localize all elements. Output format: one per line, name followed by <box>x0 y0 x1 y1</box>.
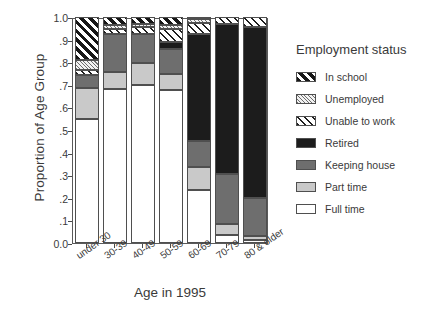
legend-swatch-icon <box>296 116 316 126</box>
legend-item-in-school[interactable]: In school <box>296 66 434 87</box>
legend-swatch-icon <box>296 182 316 192</box>
y-tick-mark <box>68 63 72 64</box>
legend-item-label: Unable to work <box>325 115 395 127</box>
bar-segment-full-time[interactable] <box>131 85 155 243</box>
y-tick-mark <box>68 199 72 200</box>
legend-item-keeping-house[interactable]: Keeping house <box>296 154 434 175</box>
bar-30-39[interactable] <box>103 19 127 243</box>
bar-segment-full-time[interactable] <box>187 190 211 243</box>
bar-segment-keeping-house[interactable] <box>159 49 183 74</box>
y-tick-label: .2 <box>38 194 68 205</box>
legend-swatch-icon <box>296 204 316 214</box>
stacked-bar-chart-figure: Proportion of Age Group 0.0.1.2.3.4.5.6.… <box>0 0 434 310</box>
legend-item-label: Keeping house <box>325 159 395 171</box>
bar-segment-unemployed[interactable] <box>75 60 99 70</box>
y-axis-tick-labels: 0.0.1.2.3.4.5.6.7.8.91.0 <box>38 0 68 310</box>
legend-item-unable-to-work[interactable]: Unable to work <box>296 110 434 131</box>
bar-70-79[interactable] <box>215 19 239 243</box>
bar-segment-full-time[interactable] <box>75 119 99 243</box>
bar-60-69[interactable] <box>187 19 211 243</box>
bar-segment-part-time[interactable] <box>159 74 183 91</box>
legend-item-label: Full time <box>325 203 365 215</box>
bar-segment-unable-to-work[interactable] <box>131 27 155 34</box>
legend-swatch-icon <box>296 138 316 148</box>
bar-under-30[interactable] <box>75 19 99 243</box>
y-tick-label: 1.0 <box>38 13 68 24</box>
bar-segment-in-school[interactable] <box>75 17 99 60</box>
legend-swatch-icon <box>296 72 316 82</box>
y-tick-label: .9 <box>38 36 68 47</box>
legend-title: Employment status <box>296 42 434 57</box>
bar-segment-unemployed[interactable] <box>187 19 211 22</box>
bar-segment-unemployed[interactable] <box>103 25 127 30</box>
bar-segment-unable-to-work[interactable] <box>103 29 127 34</box>
bar-40-49[interactable] <box>131 19 155 243</box>
legend: Employment status In schoolUnemployedUna… <box>296 42 434 220</box>
y-tick-mark <box>68 154 72 155</box>
bar-segment-part-time[interactable] <box>75 88 99 119</box>
legend-item-label: Retired <box>325 137 359 149</box>
bar-segment-part-time[interactable] <box>215 224 239 235</box>
bar-segment-unemployed[interactable] <box>159 25 183 30</box>
bar-segment-unable-to-work[interactable] <box>75 70 99 75</box>
bar-segment-retired[interactable] <box>159 42 183 49</box>
y-tick-mark <box>68 221 72 222</box>
y-tick-mark <box>68 86 72 87</box>
legend-swatch-icon <box>296 160 316 170</box>
legend-item-part-time[interactable]: Part time <box>296 176 434 197</box>
y-tick-label: .8 <box>38 58 68 69</box>
legend-item-label: Part time <box>325 181 367 193</box>
bar-segment-in-school[interactable] <box>131 17 155 24</box>
bar-segment-in-school[interactable] <box>187 17 211 19</box>
y-tick-label: .1 <box>38 216 68 227</box>
bar-segment-unable-to-work[interactable] <box>187 23 211 34</box>
legend-swatch-icon <box>296 94 316 104</box>
bar-segment-full-time[interactable] <box>159 90 183 243</box>
bar-segment-keeping-house[interactable] <box>215 174 239 224</box>
bar-segment-retired[interactable] <box>243 27 267 198</box>
legend-items: In schoolUnemployedUnable to workRetired… <box>296 66 434 219</box>
bar-segment-keeping-house[interactable] <box>187 141 211 167</box>
bar-segment-unable-to-work[interactable] <box>215 17 239 24</box>
y-tick-label: .5 <box>38 126 68 137</box>
legend-item-full-time[interactable]: Full time <box>296 198 434 219</box>
bar-segment-retired[interactable] <box>215 24 239 174</box>
y-tick-label: 0.0 <box>38 239 68 250</box>
bar-segment-in-school[interactable] <box>159 17 183 25</box>
y-tick-mark <box>68 131 72 132</box>
bar-segment-part-time[interactable] <box>103 72 127 89</box>
legend-item-label: Unemployed <box>325 93 384 105</box>
y-tick-label: .7 <box>38 81 68 92</box>
bar-segment-unable-to-work[interactable] <box>243 17 267 27</box>
bar-segment-part-time[interactable] <box>187 167 211 190</box>
y-tick-label: .3 <box>38 171 68 182</box>
y-tick-mark <box>68 108 72 109</box>
bar-segment-unable-to-work[interactable] <box>159 29 183 41</box>
bar-50-59[interactable] <box>159 19 183 243</box>
bar-segment-in-school[interactable] <box>103 17 127 25</box>
legend-item-retired[interactable]: Retired <box>296 132 434 153</box>
bar-segment-keeping-house[interactable] <box>243 198 267 236</box>
y-tick-label: .4 <box>38 149 68 160</box>
y-tick-mark <box>68 176 72 177</box>
bar-segment-keeping-house[interactable] <box>131 34 155 63</box>
x-axis-title: Age in 1995 <box>60 285 280 300</box>
y-tick-label: .6 <box>38 103 68 114</box>
bar-segment-full-time[interactable] <box>103 89 127 243</box>
bar-segment-part-time[interactable] <box>131 63 155 84</box>
bar-segment-retired[interactable] <box>187 34 211 141</box>
y-tick-mark <box>68 18 72 19</box>
bar-segment-keeping-house[interactable] <box>103 34 127 72</box>
bar-80-older[interactable] <box>243 19 267 243</box>
legend-item-label: In school <box>325 71 367 83</box>
legend-item-unemployed[interactable]: Unemployed <box>296 88 434 109</box>
y-tick-mark <box>68 41 72 42</box>
bar-segment-unemployed[interactable] <box>131 24 155 27</box>
y-tick-mark <box>68 244 72 245</box>
bar-segment-keeping-house[interactable] <box>75 75 99 89</box>
plot-area <box>72 18 268 244</box>
